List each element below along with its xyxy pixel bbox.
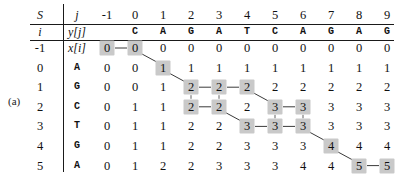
- matrix-value: 3: [300, 100, 306, 114]
- column-base-3: G: [188, 25, 194, 39]
- matrix-value: 3: [328, 119, 334, 133]
- matrix-value: 0: [160, 41, 166, 55]
- column-index-4: 4: [244, 8, 250, 22]
- matrix-value: 2: [188, 119, 194, 133]
- matrix-value: 2: [244, 80, 250, 94]
- header-corner-label: S: [37, 8, 43, 22]
- index-column-divider: [63, 4, 64, 172]
- matrix-value: 1: [300, 61, 306, 75]
- matrix-value: 3: [216, 159, 222, 173]
- dp-matrix-table: Sj-10123456789iy[j]CAGATCAGAG-1x[i]00000…: [30, 2, 394, 178]
- path-segment: [254, 93, 268, 101]
- matrix-value: 0: [132, 80, 138, 94]
- matrix-value: 1: [132, 159, 138, 173]
- matrix-value: 0: [356, 41, 362, 55]
- column-index--1: -1: [102, 8, 112, 22]
- row-index-1: 1: [37, 80, 43, 94]
- column-base-10: G: [384, 25, 390, 39]
- matrix-value: 2: [188, 100, 194, 114]
- header-col-index-label: j: [75, 8, 78, 22]
- matrix-value: 3: [356, 100, 362, 114]
- figure-label: (a): [8, 95, 20, 107]
- matrix-value: 0: [244, 41, 250, 55]
- matrix-value: 2: [328, 80, 334, 94]
- matrix-value: 0: [300, 41, 306, 55]
- header-row-index-label: i: [38, 25, 41, 39]
- matrix-value: 0: [104, 159, 110, 173]
- matrix-value: 2: [300, 80, 306, 94]
- header-row-sequence-label: x[i]: [68, 41, 86, 55]
- matrix-value: 0: [104, 119, 110, 133]
- row-base-0: A: [74, 61, 80, 75]
- row-index-5: 5: [37, 159, 43, 173]
- matrix-value: 2: [188, 139, 194, 153]
- row-base-3: T: [74, 119, 80, 133]
- matrix-value: 1: [160, 139, 166, 153]
- matrix-value: 5: [356, 159, 362, 173]
- matrix-value: 0: [216, 41, 222, 55]
- column-index-9: 9: [384, 8, 390, 22]
- matrix-value: 0: [328, 41, 334, 55]
- matrix-value: 1: [188, 61, 194, 75]
- path-segment: [226, 113, 240, 121]
- path-segment: [142, 54, 156, 62]
- matrix-value: 2: [216, 80, 222, 94]
- column-base-2: A: [160, 25, 166, 39]
- matrix-value: 1: [356, 61, 362, 75]
- matrix-value: 4: [356, 139, 362, 153]
- matrix-value: 0: [272, 41, 278, 55]
- matrix-value: 1: [244, 61, 250, 75]
- row-base-5: A: [74, 159, 80, 173]
- column-index-8: 8: [356, 8, 362, 22]
- column-base-5: T: [244, 25, 250, 39]
- row-base-2: C: [74, 100, 80, 114]
- matrix-value: 1: [132, 119, 138, 133]
- matrix-value: 0: [188, 41, 194, 55]
- matrix-value: 1: [216, 61, 222, 75]
- column-base-9: A: [356, 25, 362, 39]
- matrix-value: 4: [328, 139, 334, 153]
- matrix-value: 1: [384, 61, 390, 75]
- matrix-value: 3: [272, 159, 278, 173]
- matrix-value: 3: [272, 100, 278, 114]
- matrix-value: 0: [104, 61, 110, 75]
- matrix-value: 1: [160, 61, 166, 75]
- matrix-value: 1: [328, 61, 334, 75]
- matrix-value: 3: [272, 139, 278, 153]
- matrix-value: 2: [384, 80, 390, 94]
- matrix-value: 3: [356, 119, 362, 133]
- row-base-4: G: [74, 139, 80, 153]
- header-col-sequence-label: y[j]: [68, 25, 86, 39]
- path-segment: [338, 152, 352, 160]
- matrix-value: 5: [384, 159, 390, 173]
- matrix-value: 2: [188, 159, 194, 173]
- matrix-value: 3: [244, 139, 250, 153]
- row-index-2: 2: [37, 100, 43, 114]
- path-segment: [310, 132, 324, 140]
- matrix-value: 0: [104, 41, 110, 55]
- matrix-value: 1: [160, 100, 166, 114]
- row-index--1: -1: [35, 41, 45, 55]
- matrix-value: 3: [244, 119, 250, 133]
- matrix-value: 0: [104, 80, 110, 94]
- row-index-4: 4: [37, 139, 43, 153]
- matrix-value: 2: [216, 119, 222, 133]
- column-index-0: 0: [132, 8, 138, 22]
- column-index-2: 2: [188, 8, 194, 22]
- matrix-value: 0: [104, 139, 110, 153]
- column-index-1: 1: [160, 8, 166, 22]
- matrix-value: 0: [384, 41, 390, 55]
- matrix-value: 3: [300, 139, 306, 153]
- column-index-5: 5: [272, 8, 278, 22]
- matrix-value: 2: [188, 80, 194, 94]
- matrix-value: 3: [384, 100, 390, 114]
- matrix-value: 2: [216, 100, 222, 114]
- column-base-7: A: [300, 25, 306, 39]
- matrix-value: 3: [328, 100, 334, 114]
- matrix-value: 2: [216, 139, 222, 153]
- matrix-value: 4: [300, 159, 306, 173]
- matrix-value: 2: [272, 80, 278, 94]
- matrix-value: 1: [160, 119, 166, 133]
- row-base-1: G: [74, 80, 80, 94]
